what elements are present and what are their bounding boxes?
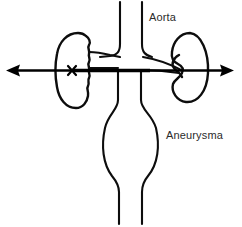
aorta-left-wall-lower (103, 72, 119, 224)
aorta-left-wall (100, 2, 120, 57)
anatomical-diagram: Aorta Aneurysma (0, 0, 242, 227)
guide-arrowhead-right (220, 65, 234, 77)
diagram-canvas (0, 0, 242, 227)
label-aorta: Aorta (149, 11, 176, 23)
label-aneurysma: Aneurysma (166, 129, 223, 141)
guide-arrowhead-left (6, 65, 20, 77)
aorta-right-wall-lower (141, 72, 158, 224)
